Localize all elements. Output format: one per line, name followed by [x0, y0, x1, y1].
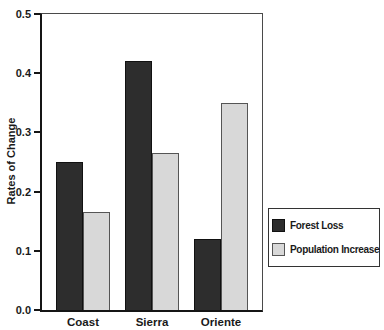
y-tick-mark [34, 250, 40, 252]
bar-forest-loss-oriente [194, 239, 221, 310]
y-tick-mark [34, 72, 40, 74]
y-tick-label: 0.4 [16, 67, 31, 79]
y-tick-label: 0.5 [16, 8, 31, 20]
y-tick-label: 0.3 [16, 126, 31, 138]
bar-chart: Rates of Change 0.00.10.20.30.40.5CoastS… [0, 0, 384, 330]
y-tick-mark [34, 191, 40, 193]
bar-population-increase-coast [83, 212, 110, 310]
plot-area: 0.00.10.20.30.40.5CoastSierraOriente [40, 13, 263, 312]
x-category-label-oriente: Oriente [201, 316, 241, 328]
y-tick-label: 0.1 [16, 245, 31, 257]
x-category-label-sierra: Sierra [136, 316, 169, 328]
x-category-label-coast: Coast [67, 316, 99, 328]
legend-item-forest-loss: Forest Loss [272, 219, 376, 232]
legend-item-population-increase: Population Increase [272, 243, 376, 256]
bar-forest-loss-coast [56, 162, 83, 310]
bar-population-increase-sierra [152, 153, 179, 310]
legend-label: Population Increase [290, 244, 379, 255]
y-tick-label: 0.0 [16, 304, 31, 316]
bar-forest-loss-sierra [125, 61, 152, 310]
y-tick-label: 0.2 [16, 186, 31, 198]
legend-swatch [272, 243, 285, 256]
legend-swatch [272, 219, 285, 232]
y-tick-mark [34, 309, 40, 311]
bar-population-increase-oriente [221, 103, 248, 310]
y-tick-mark [34, 131, 40, 133]
legend-label: Forest Loss [290, 220, 343, 231]
legend: Forest LossPopulation Increase [268, 208, 380, 267]
y-tick-mark [34, 13, 40, 15]
